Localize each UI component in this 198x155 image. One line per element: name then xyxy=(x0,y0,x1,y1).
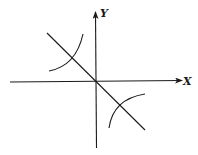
y-axis-label: Y xyxy=(100,8,108,19)
x-axis-label: X xyxy=(183,76,192,87)
diagram-canvas xyxy=(0,0,198,155)
coordinate-diagram: Y X xyxy=(0,0,198,155)
y-axis xyxy=(96,12,97,148)
